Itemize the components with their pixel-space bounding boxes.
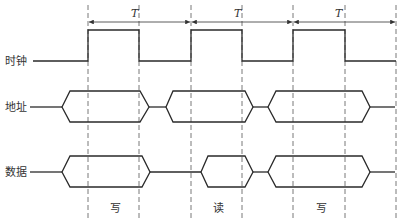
data-waveform (30, 156, 395, 187)
timing-diagram: T T T 时钟 地址 数据 写 读 写 (0, 0, 402, 221)
cycle-label-2: 读 (213, 201, 224, 215)
cycle-label-3: 写 (316, 202, 327, 215)
period-label-3: T (335, 7, 344, 20)
cycle-label-1: 写 (110, 202, 121, 215)
signal-label-data: 数据 (5, 165, 27, 179)
address-waveform (30, 91, 395, 122)
clock-waveform (33, 30, 396, 61)
signal-label-address: 地址 (5, 100, 27, 114)
signal-label-clock: 时钟 (5, 54, 27, 68)
